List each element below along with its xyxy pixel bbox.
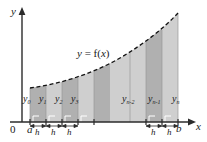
figure-area-under-curve: y x 0 y = f(x) y0 y1 y2 y3 yn-2 yn-1 yn … [0, 0, 207, 142]
width-label-h-2: h [51, 128, 56, 137]
width-label-h-1: h [35, 128, 40, 137]
x-axis-label: x [196, 121, 201, 132]
curve-eq-equals: = [82, 47, 94, 59]
ordinate-label-yn-1: yn-1 [148, 94, 160, 104]
width-label-h-4: h [151, 128, 156, 137]
width-label-h-3: h [67, 128, 72, 137]
curve-equation-label: y = f(x) [77, 48, 110, 59]
ordinate-label-y2: y2 [55, 94, 62, 104]
curve-eq-close: ) [106, 47, 110, 59]
strip-3 [94, 0, 110, 142]
ordinate-label-y3: y3 [71, 94, 78, 104]
curve-eq-fn: f( [94, 47, 101, 59]
strip-n1 [146, 0, 162, 142]
x-axis-arrowhead [188, 119, 196, 126]
strip-2 [62, 0, 78, 142]
ordinate-label-yn-2: yn-2 [122, 94, 134, 104]
ordinate-subscript: n-1 [152, 99, 160, 105]
ordinate-label-y1: y1 [39, 94, 46, 104]
origin-label: 0 [10, 124, 16, 135]
width-label-h-5: h [167, 128, 172, 137]
x-tick-label-b: b [176, 123, 182, 134]
y-axis-label: y [11, 6, 16, 17]
y-axis-arrowhead [19, 7, 26, 15]
ordinate-label-yn: yn [172, 94, 179, 104]
x-tick-label-a: a [27, 124, 33, 135]
ordinate-label-y0: y0 [23, 94, 30, 104]
ordinate-subscript: n-2 [126, 99, 134, 105]
strip-0 [30, 0, 46, 142]
figure-canvas [0, 0, 207, 142]
